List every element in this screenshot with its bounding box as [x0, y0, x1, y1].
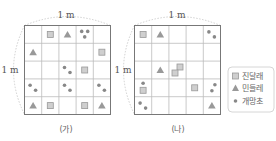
fleabane-dot [63, 66, 67, 70]
fleabane-dot [213, 35, 217, 39]
dandelion-triangle [98, 102, 106, 109]
azalea-square [82, 103, 88, 109]
legend-label-1: 민들레 [242, 83, 263, 93]
dandelion-triangle [29, 102, 37, 109]
legend-square-icon [233, 73, 239, 79]
azalea-square [47, 103, 53, 109]
fleabane-dot [138, 101, 142, 105]
side-length-label-ga: 1 m [1, 65, 19, 75]
quadrat-panel-ga [14, 17, 111, 115]
azalea-square [47, 31, 53, 37]
fleabane-dot [213, 83, 217, 87]
side-length-label-na: 1 m [114, 65, 132, 75]
fleabane-dot [83, 35, 87, 39]
fleabane-dot [80, 30, 84, 34]
caption-na: (나) [171, 125, 184, 134]
legend-label-2: 개망초 [242, 96, 263, 106]
caption-ga: (가) [59, 125, 72, 134]
fleabane-dot [63, 84, 67, 88]
fleabane-dot [97, 84, 101, 88]
fleabane-dot [207, 30, 211, 34]
fleabane-dot [210, 89, 214, 93]
top-length-label-na: 1 m [168, 10, 186, 20]
legend: 진달래 민들레 개망초 [228, 67, 274, 112]
dandelion-triangle [157, 67, 165, 74]
fleabane-dot [141, 82, 145, 86]
azalea-square [82, 67, 88, 73]
legend-label-0: 진달래 [242, 71, 263, 81]
dandelion-triangle [157, 31, 165, 38]
fleabane-dot [34, 89, 38, 93]
fleabane-dot [144, 106, 148, 110]
dandelion-triangle [64, 31, 72, 38]
azalea-square [140, 87, 146, 93]
quadrat-diagram: 1 m 1 m (가) 1 m 1 m (나) 진달래 민들레 개망초 [0, 0, 276, 141]
dandelion-triangle [29, 49, 37, 56]
azalea-square [99, 49, 105, 55]
azalea-square [172, 70, 178, 76]
fleabane-dot [68, 89, 72, 93]
azalea-square [192, 85, 198, 91]
azalea-square [177, 64, 183, 70]
fleabane-dot [28, 84, 32, 88]
fleabane-dot [86, 30, 90, 34]
dandelion-triangle [208, 102, 216, 109]
quadrat-border [25, 26, 111, 115]
top-length-label-ga: 1 m [57, 10, 75, 20]
quadrat-panel-na [124, 17, 221, 115]
fleabane-dot [103, 89, 107, 93]
azalea-square [140, 31, 146, 37]
legend-dot-icon [234, 99, 238, 103]
fleabane-dot [68, 71, 72, 75]
